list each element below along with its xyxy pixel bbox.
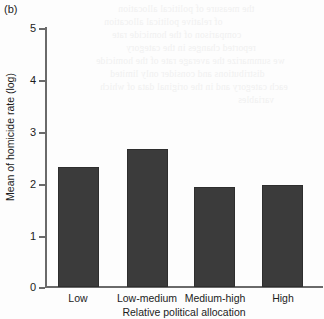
- y-tick-mark: [39, 184, 45, 186]
- y-tick-mark: [39, 28, 45, 30]
- x-tick-label-medium-high: Medium-high: [185, 292, 246, 304]
- y-tick-mark: [39, 287, 45, 289]
- y-tick-mark: [39, 236, 45, 238]
- y-axis-title: Mean of homicide rate (log): [4, 17, 16, 257]
- ghost-text-line: of relative political allocation: [104, 17, 223, 27]
- y-tick-mark: [39, 132, 45, 134]
- bar-low[interactable]: [58, 167, 99, 287]
- x-tick-label-low-medium: Low-medium: [117, 292, 177, 304]
- panel-label: (b): [4, 3, 17, 15]
- plot-area: [46, 28, 322, 287]
- ghost-text-line: the measure of political allocation: [118, 4, 254, 14]
- y-tick-label: 0: [6, 282, 36, 293]
- x-tick-label-high: High: [272, 292, 294, 304]
- x-tick-label-low: Low: [68, 292, 87, 304]
- x-axis-title: Relative political allocation: [46, 306, 322, 318]
- y-tick-mark: [39, 80, 45, 82]
- figure-panel-b: the measure of political allocation of r…: [0, 0, 324, 319]
- bar-low-medium[interactable]: [127, 149, 168, 287]
- bar-medium-high[interactable]: [194, 187, 235, 287]
- bar-high[interactable]: [262, 185, 303, 287]
